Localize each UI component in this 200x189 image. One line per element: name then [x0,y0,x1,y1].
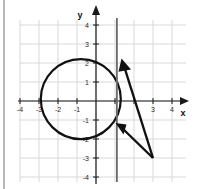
ytick-label-pos1: 1 [85,79,89,86]
ytick-label-pos4: 4 [85,22,89,29]
x-axis-label: x [180,108,185,118]
y-axis [92,5,100,184]
ytick-label-pos3: 3 [85,41,89,48]
upper-arrowhead [119,59,132,72]
xtick-label-pos4: 4 [170,106,174,113]
xtick-label-neg1: -1 [74,106,80,113]
circle-curve [41,59,121,139]
ytick-label-neg1: -1 [83,117,89,124]
x-axis [18,97,189,105]
ytick-label-neg3: -3 [83,155,89,162]
xtick-label-neg4: -4 [17,106,23,113]
xtick-label-pos3: 3 [151,106,155,113]
x-axis-arrowhead [180,97,189,105]
upper-arrow [119,59,154,159]
coordinate-plane: -4 -3 -2 -1 3 4 4 3 2 1 -1 -2 -3 -4 x y [0,0,200,189]
ytick-label-neg4: -4 [83,174,89,181]
graph-figure: -4 -3 -2 -1 3 4 4 3 2 1 -1 -2 -3 -4 x y [0,0,200,189]
xtick-label-neg2: -2 [55,106,61,113]
y-axis-arrowhead [92,5,100,15]
y-axis-label: y [77,10,82,20]
